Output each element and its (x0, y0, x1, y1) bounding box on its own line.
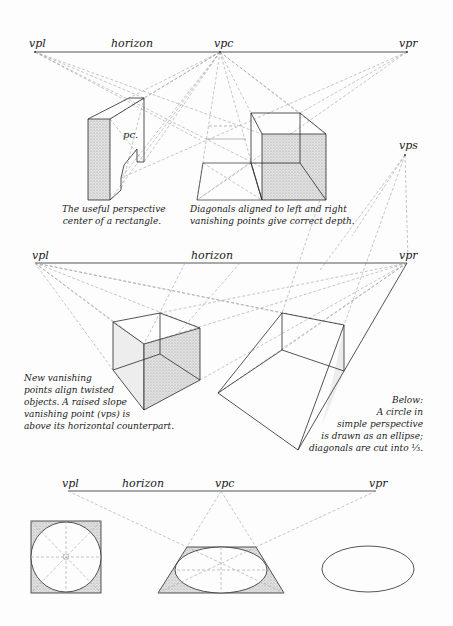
circle-in-perspective (158, 547, 284, 593)
top-vpl-label: vpl (29, 38, 46, 49)
circle-in-square (31, 521, 101, 593)
bottom-vpc-label: vpc (215, 478, 234, 489)
pc-label: pc. (123, 130, 138, 140)
caption-line: simple perspective (300, 418, 423, 430)
caption-circle-ellipse: Below: A circle in simple perspective is… (300, 394, 423, 454)
caption-line: diagonals are cut into ⅓. (300, 442, 423, 454)
middle-guide-lines (35, 200, 407, 393)
top-horizon-label: horizon (111, 38, 153, 49)
caption-line: A circle in (300, 406, 423, 418)
bottom-guide-lines (68, 491, 376, 547)
plain-ellipse (322, 546, 414, 592)
caption-line: points align twisted (24, 384, 174, 396)
caption-line: is drawn as an ellipse; (300, 430, 423, 442)
left-block (88, 98, 144, 200)
caption-line: Below: (300, 394, 423, 406)
caption-line: objects. A raised slope (24, 396, 174, 408)
top-vpr-label: vpr (399, 38, 418, 49)
perspective-drawing (0, 0, 453, 626)
caption-line: vanishing point (vps) is (24, 408, 174, 420)
vps-label: vps (399, 140, 418, 151)
caption-line: Diagonals aligned to left and right (190, 203, 330, 215)
bottom-vpl-label: vpl (62, 478, 79, 489)
left-block-front-face (88, 119, 110, 200)
caption-line: vanishing points give correct depth. (190, 215, 330, 227)
bottom-vpr-label: vpr (369, 478, 388, 489)
middle-horizon-label: horizon (191, 250, 233, 261)
top-vpc-label: vpc (214, 38, 233, 49)
caption-line: The useful perspective (62, 203, 162, 215)
middle-vpr-label: vpr (399, 250, 418, 261)
caption-twisted-objects: New vanishing points align twisted objec… (24, 372, 174, 432)
middle-vpl-label: vpl (32, 250, 49, 261)
perspective-diagram-page: vpl horizon vpc vpr vps pc. The useful p… (0, 0, 453, 626)
caption-line: center of a rectangle. (62, 215, 162, 227)
caption-line: New vanishing (24, 372, 174, 384)
caption-perspective-center: The useful perspective center of a recta… (62, 203, 162, 227)
bottom-horizon-label: horizon (122, 478, 164, 489)
caption-line: above its horizontal counterpart. (24, 420, 174, 432)
right-cube (251, 113, 326, 200)
right-cube-front-face (262, 134, 326, 200)
caption-diagonals-depth: Diagonals aligned to left and right vani… (190, 203, 330, 227)
